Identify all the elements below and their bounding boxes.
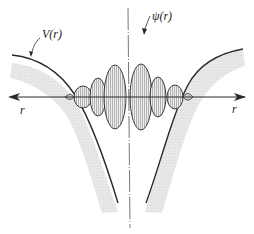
potential-leader-arrow-icon [29,51,33,57]
symmetry-axis [128,8,130,228]
left-axis-label: r [20,103,25,117]
quantum-well-diagram: V(r) ψ(r) r r [0,0,254,234]
wavefunction-leader-arrow-icon [142,28,147,35]
wavefunction-label: ψ(r) [152,9,172,23]
right-axis-label: r [232,102,237,116]
potential-label: V(r) [42,27,62,41]
